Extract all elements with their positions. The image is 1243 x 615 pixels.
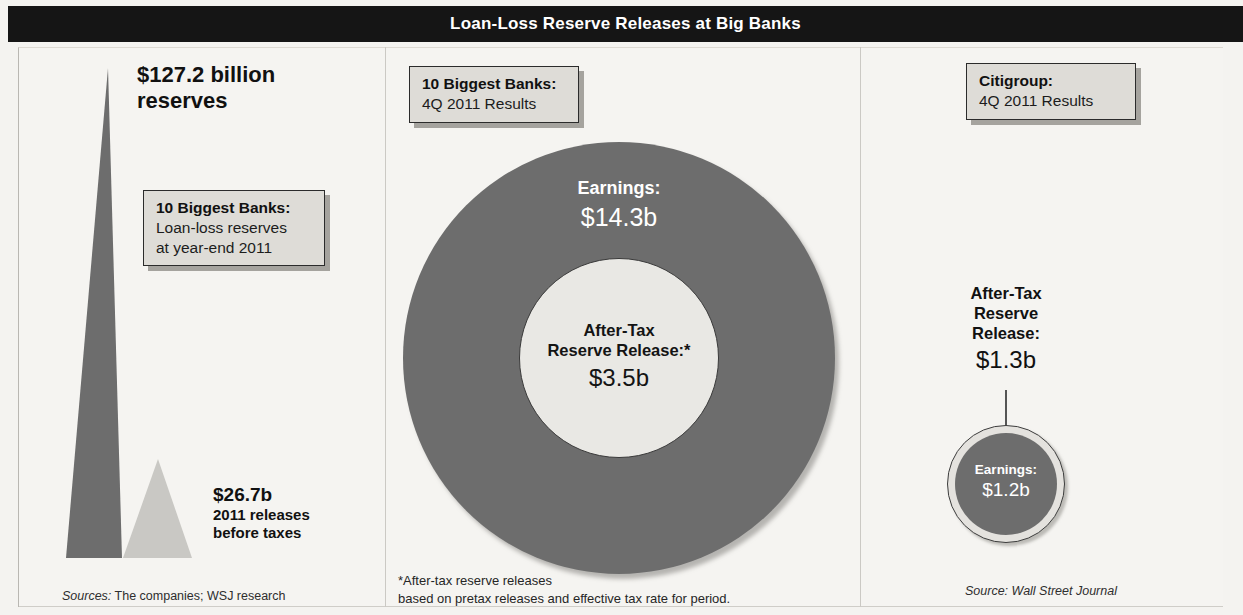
- page-title: Loan-Loss Reserve Releases at Big Banks: [450, 14, 801, 34]
- callout-left-line2: at year-end 2011: [156, 238, 312, 258]
- callout-center-line1: 4Q 2011 Results: [422, 94, 566, 114]
- callout-left-line1: Loan-loss reserves: [156, 218, 312, 238]
- citi-release-value: $1.3b: [926, 345, 1086, 374]
- leader-line-icon: [1005, 390, 1007, 428]
- reserve-release-circle-label: After-Tax Reserve Release:* $3.5b: [519, 320, 719, 393]
- infographic-root: Loan-Loss Reserve Releases at Big Banks …: [0, 0, 1243, 615]
- source-right-value: Wall Street Journal: [1008, 584, 1117, 598]
- callout-left-banks: 10 Biggest Banks: Loan-loss reserves at …: [143, 190, 325, 266]
- callout-right-line1: 4Q 2011 Results: [979, 91, 1123, 111]
- reserves-headline: $127.2 billion reserves: [137, 62, 275, 114]
- releases-stat-line1: 2011 releases: [213, 506, 310, 524]
- citi-release-label: After-Tax Reserve Release: $1.3b: [926, 283, 1086, 375]
- panel-divider-left: [385, 47, 386, 607]
- source-right-label: Source:: [965, 584, 1008, 598]
- title-bar: Loan-Loss Reserve Releases at Big Banks: [8, 6, 1243, 42]
- center-footnote: *After-tax reserve releases based on pre…: [398, 572, 730, 607]
- callout-right-heading: Citigroup:: [979, 71, 1123, 91]
- source-left-label: Sources:: [62, 589, 111, 603]
- earnings-circle-label-text: Earnings:: [403, 178, 835, 200]
- earnings-circle-value: $14.3b: [403, 202, 835, 233]
- citi-release-label-line1: After-Tax: [926, 283, 1086, 303]
- releases-stat-value: $26.7b: [213, 484, 310, 506]
- releases-stat-line2: before taxes: [213, 524, 310, 542]
- citi-release-label-line3: Release:: [926, 323, 1086, 343]
- reserves-headline-value: $127.2 billion: [137, 62, 275, 88]
- reserve-release-value: $3.5b: [519, 363, 719, 392]
- source-left: Sources: The companies; WSJ research: [62, 589, 286, 603]
- center-footnote-line2: based on pretax releases and effective t…: [398, 590, 730, 608]
- callout-center-banks: 10 Biggest Banks: 4Q 2011 Results: [409, 66, 579, 123]
- reserve-release-label-line2: Reserve Release:*: [519, 340, 719, 360]
- citi-earnings-label-text: Earnings:: [955, 462, 1057, 478]
- reserve-release-label-line1: After-Tax: [519, 320, 719, 340]
- reserves-headline-label: reserves: [137, 88, 275, 114]
- citi-earnings-value: $1.2b: [955, 478, 1057, 501]
- center-footnote-line1: *After-tax reserve releases: [398, 572, 730, 590]
- callout-center-heading: 10 Biggest Banks:: [422, 74, 566, 94]
- source-left-value: The companies; WSJ research: [111, 589, 285, 603]
- source-right: Source: Wall Street Journal: [965, 584, 1117, 598]
- releases-triangle-light: [118, 455, 208, 565]
- citi-earnings-label: Earnings: $1.2b: [955, 462, 1057, 502]
- releases-stat: $26.7b 2011 releases before taxes: [213, 484, 310, 542]
- callout-left-heading: 10 Biggest Banks:: [156, 198, 312, 218]
- citi-release-label-line2: Reserve: [926, 303, 1086, 323]
- callout-right-citigroup: Citigroup: 4Q 2011 Results: [966, 63, 1136, 120]
- panel-divider-right: [860, 47, 861, 607]
- earnings-circle-label: Earnings: $14.3b: [403, 178, 835, 232]
